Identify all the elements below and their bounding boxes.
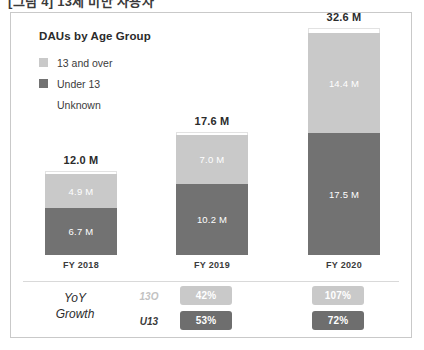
yoy-growth-section: YoY Growth 13O 42% 107% U13 53% 72% [11,282,411,338]
bar-segment-label-13-and-over-fy-2019: 7.0 M [200,154,225,165]
yoy-pill-under-13-fy-2019: 53% [180,311,232,330]
x-axis-tick-fy-2019: FY 2019 [176,260,248,270]
bar-segment-13-and-over-fy-2020: 14.4 M [308,33,380,133]
bar-segment-label-under-13-fy-2020: 17.5 M [329,189,359,200]
x-axis-tick-fy-2020: FY 2020 [308,260,380,270]
bar-segment-under-13-fy-2019: 10.2 M [176,184,248,255]
clipped-header-label: [그림 4] 13세 미만 사용자 [8,0,154,9]
bar-stack-fy-2019: 7.0 M 10.2 M [176,132,248,255]
bar-segment-label-13-and-over-fy-2018: 4.9 M [69,186,94,197]
yoy-pill-13-and-over-fy-2020: 107% [312,286,364,305]
yoy-pill-13-and-over-fy-2019: 42% [180,286,232,305]
bar-segment-13-and-over-fy-2018: 4.9 M [45,174,117,208]
chart-card: DAUs by Age Group 13 and over Under 13 U… [10,12,412,338]
bar-stack-fy-2020: 14.4 M 17.5 M [308,28,380,255]
bar-group-fy-2019: 17.6 M 7.0 M 10.2 M [176,115,248,255]
plot-area: 12.0 M 4.9 M 6.7 M 17.6 M 7.0 M 10.2 [31,27,401,255]
yoy-row-under-13: U13 53% 72% [11,311,411,333]
x-axis-tick-fy-2018: FY 2018 [45,260,117,270]
bar-segment-13-and-over-fy-2019: 7.0 M [176,135,248,184]
bar-segment-label-13-and-over-fy-2020: 14.4 M [329,78,359,89]
bar-segment-under-13-fy-2020: 17.5 M [308,133,380,255]
yoy-row-label-under-13: U13 [129,311,169,333]
bar-segment-under-13-fy-2018: 6.7 M [45,208,117,255]
bar-segment-label-under-13-fy-2018: 6.7 M [69,226,94,237]
bar-total-label-fy-2019: 17.6 M [195,115,230,127]
yoy-pill-under-13-fy-2020: 72% [312,311,364,330]
clipped-header-text: [그림 4] 13세 미만 사용자 [0,0,424,9]
x-axis: FY 2018 FY 2019 FY 2020 [31,260,401,276]
yoy-row-13-and-over: 13O 42% 107% [11,286,411,308]
bar-total-label-fy-2020: 32.6 M [327,11,362,23]
bar-group-fy-2020: 32.6 M 14.4 M 17.5 M [308,11,380,255]
yoy-row-label-13-and-over: 13O [129,286,169,308]
bar-total-label-fy-2018: 12.0 M [64,154,99,166]
bar-group-fy-2018: 12.0 M 4.9 M 6.7 M [45,154,117,255]
bar-segment-label-under-13-fy-2019: 10.2 M [197,214,227,225]
bar-stack-fy-2018: 4.9 M 6.7 M [45,171,117,255]
